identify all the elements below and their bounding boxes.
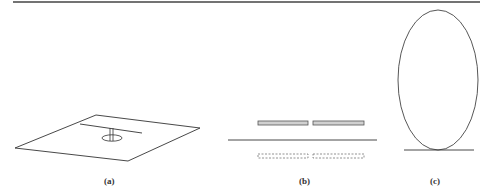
- panel-a-diagram: [15, 115, 200, 161]
- ground-plane: [15, 115, 200, 161]
- panel-c-diagram: [398, 10, 478, 150]
- panel-c-label: (c): [430, 176, 440, 186]
- feed-loop: [102, 135, 122, 141]
- image-strip-left: [258, 154, 308, 158]
- strip-left: [258, 121, 308, 125]
- figure-canvas: [0, 0, 488, 193]
- strip-right: [313, 121, 364, 125]
- elliptical-loop: [398, 10, 478, 150]
- image-strip-right: [313, 154, 364, 158]
- panel-a-label: (a): [104, 176, 115, 186]
- panel-b-label: (b): [299, 176, 310, 186]
- dipole-arm: [80, 124, 142, 133]
- panel-b-diagram: [228, 121, 377, 158]
